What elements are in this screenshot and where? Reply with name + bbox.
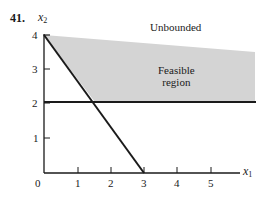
- y-tick-label-3: 3: [32, 64, 38, 75]
- y-tick-label-4: 4: [32, 30, 38, 41]
- x-axis-label: x1: [243, 166, 252, 180]
- feasible-region-fill: [44, 35, 255, 102]
- unbounded-label: Unbounded: [150, 22, 201, 33]
- x-tick-label-0: 0: [35, 178, 41, 189]
- y-tick-label-2: 2: [32, 98, 38, 109]
- problem-number: 41.: [10, 13, 25, 24]
- x-tick-label-4: 4: [174, 178, 180, 189]
- y-tick-label-1: 1: [33, 133, 39, 144]
- x-tick-label-3: 3: [141, 178, 147, 189]
- x-tick-label-1: 1: [75, 178, 81, 189]
- y-axis-label: x2: [38, 12, 47, 26]
- x-tick-label-5: 5: [208, 178, 214, 189]
- feasible-region-label: Feasible region: [158, 64, 195, 88]
- x-tick-label-2: 2: [108, 178, 114, 189]
- feasible-region-plot: [0, 0, 267, 197]
